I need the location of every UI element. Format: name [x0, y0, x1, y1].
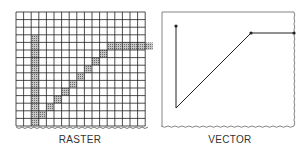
vector-vertex: [249, 31, 252, 34]
vector-panel: VECTOR: [0, 0, 306, 132]
vector-vertex: [174, 24, 177, 27]
vector-vertex: [292, 31, 295, 34]
vector-frame: [161, 12, 295, 127]
vector-label: VECTOR: [190, 134, 270, 145]
raster-label: RASTER: [40, 134, 120, 145]
vector-path: [176, 26, 294, 108]
vector-drawing: [0, 0, 306, 132]
